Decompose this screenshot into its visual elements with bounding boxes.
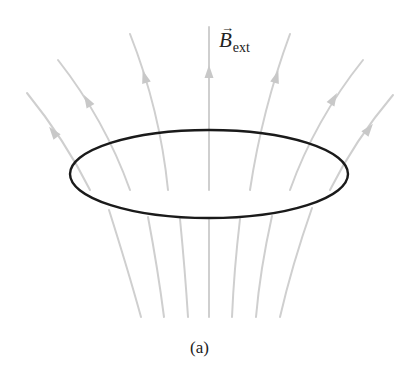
field-line <box>130 34 168 190</box>
lower-field-lines <box>109 208 312 317</box>
field-line <box>330 95 393 190</box>
field-line <box>280 208 312 317</box>
arrowhead-icon <box>205 65 214 78</box>
field-label-b-ext: →Bext <box>219 30 250 51</box>
arrowhead-icon <box>138 69 150 84</box>
field-line <box>256 216 272 317</box>
figure-caption: (a) <box>190 338 209 358</box>
vector-arrow-icon: → <box>221 21 234 34</box>
field-line <box>250 34 290 190</box>
field-subscript: ext <box>233 40 250 55</box>
magnetic-field-diagram: →Bext (a) <box>0 0 410 372</box>
diagram-canvas <box>0 0 410 372</box>
field-line <box>148 217 164 317</box>
field-line <box>180 219 188 317</box>
upper-field-lines <box>27 27 393 190</box>
field-line <box>109 210 141 317</box>
field-line <box>232 219 240 317</box>
field-line <box>290 60 363 190</box>
field-line <box>58 60 130 190</box>
field-line <box>27 93 90 190</box>
